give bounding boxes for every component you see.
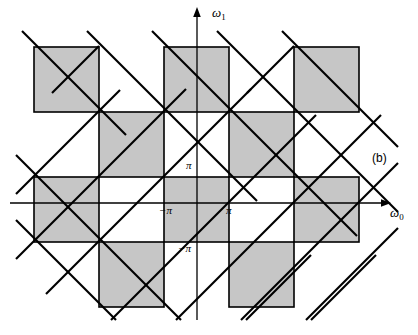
x-axis-label-subscript: 0 bbox=[399, 212, 404, 222]
tick-label-x-neg-pi: −π bbox=[159, 205, 172, 216]
x-axis-label-symbol: ω bbox=[390, 205, 399, 220]
y-axis-label-symbol: ω bbox=[212, 5, 221, 20]
panel-label: (b) bbox=[372, 152, 387, 164]
x-axis-label: ω0 bbox=[390, 206, 404, 222]
y-axis-label: ω1 bbox=[212, 6, 226, 22]
tick-label-x-pi: π bbox=[226, 205, 232, 216]
tick-label-y-pi: π bbox=[186, 160, 192, 171]
frequency-response-diagram bbox=[0, 0, 418, 335]
figure-container: ω1 ω0 π −π −π π (b) bbox=[0, 0, 418, 335]
tick-label-y-neg-pi: −π bbox=[178, 243, 191, 254]
y-axis-label-subscript: 1 bbox=[221, 12, 226, 22]
